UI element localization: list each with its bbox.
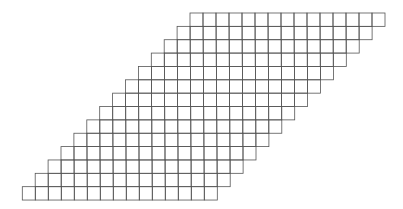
grid-cell [256,80,269,93]
grid-cell [164,53,177,66]
grid-cell [346,13,359,26]
grid-row [61,147,256,160]
grid-cell [152,173,165,186]
grid-row [151,53,346,66]
grid-cell [177,26,190,39]
grid-row [138,66,333,79]
grid-cell [126,173,139,186]
grid-cell [165,133,178,146]
grid-cell [74,173,87,186]
grid-cell [165,147,178,160]
grid-cell [282,80,295,93]
grid-cell [165,173,178,186]
grid-cell [139,80,152,93]
grid-cell [243,120,256,133]
grid-cell [190,66,203,79]
grid-cell [48,173,61,186]
grid-cell [113,147,126,160]
grid-cell [333,13,346,26]
grid-cell [152,187,165,200]
grid-cell [346,26,359,39]
grid-cell [320,53,333,66]
grid-cell [191,93,204,106]
grid-cell [113,133,126,146]
grid-cell [113,160,126,173]
grid-cell [126,133,139,146]
grid-row [48,160,243,173]
grid-cell [229,66,242,79]
grid-cell [269,120,282,133]
grid-cell [152,147,165,160]
grid-cell [164,66,177,79]
grid-cell [255,66,268,79]
grid-cell [230,80,243,93]
grid-cell [151,53,164,66]
grid-cell [204,173,217,186]
grid-row [22,187,217,200]
grid-cell [139,133,152,146]
grid-cell [255,13,268,26]
grid-cell [178,160,191,173]
grid-cell [242,26,255,39]
grid-row [190,13,385,26]
grid-cell [113,93,126,106]
grid-cell [61,173,74,186]
grid-cell [165,160,178,173]
grid-cell [74,147,87,160]
grid-cell [230,93,243,106]
grid-cell [372,13,385,26]
grid-cell [269,107,282,120]
grid-row [113,93,308,106]
grid-cell [126,160,139,173]
grid-cell [113,173,126,186]
grid-cell [190,13,203,26]
grid-cell [204,80,217,93]
grid-cell [229,26,242,39]
grid-cell [87,120,100,133]
grid-cell [242,40,255,53]
grid-cell [139,173,152,186]
grid-cell [61,160,74,173]
grid-cell [152,160,165,173]
grid-cell [243,80,256,93]
grid-cell [243,133,256,146]
grid-cell [74,160,87,173]
grid-cell [217,93,230,106]
grid-row [74,133,269,146]
grid-cell [333,53,346,66]
grid-cell [204,120,217,133]
grid-cell [177,40,190,53]
grid-cell [113,120,126,133]
grid-cell [87,173,100,186]
grid-cell [191,147,204,160]
grid-cell [100,133,113,146]
grid-cell [294,26,307,39]
grid-cell [217,147,230,160]
grid-cell [203,13,216,26]
grid-cell [126,187,139,200]
grid-cell [100,187,113,200]
grid-row [126,80,321,93]
grid-cell [178,93,191,106]
grid-cell [217,160,230,173]
grid-cell [126,120,139,133]
grid-cell [100,173,113,186]
grid-cell [165,107,178,120]
grid-cell [307,13,320,26]
grid-cell [178,147,191,160]
grid-cell [151,66,164,79]
grid-cell [152,80,165,93]
grid-cell [178,173,191,186]
grid-cell [178,120,191,133]
grid-cell [35,173,48,186]
grid-cell [217,133,230,146]
grid-cell [282,93,295,106]
grid-cell [281,26,294,39]
grid-cell [256,120,269,133]
grid-cell [126,147,139,160]
grid-cell [152,107,165,120]
grid-cell [204,133,217,146]
grid-cell [320,26,333,39]
grid-cell [255,26,268,39]
grid-cell [281,13,294,26]
